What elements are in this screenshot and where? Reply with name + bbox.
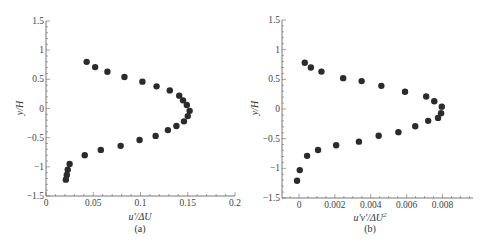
data-point [425,118,431,124]
data-point [82,152,88,158]
data-point [92,64,98,70]
x-tick-label: 0.004 [360,200,382,210]
x-axis-label-a: u'/ΔU [128,211,152,222]
data-point [117,143,123,149]
y-tick-label: −1.5 [263,193,280,203]
data-point [308,64,314,70]
data-point [184,102,190,108]
data-point [185,113,191,119]
data-point [315,147,321,153]
chart-panel-a: 1.510.50−0.5−1−1.500.050.10.150.2 u'/ΔU … [14,16,241,235]
axes-a: 1.510.50−0.5−1−1.500.050.10.150.2 [27,16,241,208]
figure: 1.510.50−0.5−1−1.500.050.10.150.2 u'/ΔU … [0,0,488,248]
y-tick-label: 0.5 [268,74,280,84]
data-point [423,93,429,99]
data-point [375,133,381,139]
data-point [153,83,159,89]
data-point [297,167,303,173]
data-point [104,69,110,75]
y-tick-label: 0.5 [32,74,44,84]
data-point [66,161,72,167]
x-axis-label-b-base: u'v'/ΔU [353,212,383,223]
x-tick-label: 0.008 [432,200,454,210]
x-axis-label-b-sup: 2 [383,211,387,219]
data-point [121,74,127,80]
data-point [412,123,418,129]
data-point [304,153,310,159]
y-tick-label: −0.5 [27,133,44,143]
x-axis-label-b: u'v'/ΔU2 [353,211,387,223]
y-tick-label: 1.5 [32,16,44,26]
y-tick-label: −1 [34,162,44,172]
y-tick-label: −1 [270,163,280,173]
x-tick-label: 0.1 [135,198,147,208]
x-tick-label: 0.006 [396,200,418,210]
panel-caption-b: (b) [364,223,376,235]
chart-panel-b: 1.510.50−0.5−1−1.500.0020.0040.0060.008 … [249,15,473,235]
data-point [318,68,324,74]
x-tick-label: 0 [297,200,302,210]
data-point [431,98,437,104]
data-point [402,89,408,95]
x-tick-label: 0.05 [85,198,102,208]
y-tick-label: 0 [275,104,280,114]
data-point [356,138,362,144]
y-tick-label: 0 [39,104,44,114]
data-point [181,118,187,124]
x-tick-label: 0.15 [179,198,196,208]
data-point [167,87,173,93]
data-points-a [63,59,193,183]
panel-caption-a: (a) [134,223,145,235]
y-axis-label-a: y/H [14,100,25,116]
x-tick-label: 0 [44,198,49,208]
data-point [358,78,364,84]
data-points-b [294,60,445,184]
y-axis-label-b: y/H [249,100,260,116]
data-point [152,133,158,139]
y-tick-label: 1.5 [268,15,280,25]
data-point [63,176,69,182]
x-tick-label: 0.2 [229,198,241,208]
data-point [165,127,171,133]
data-point [98,147,104,153]
data-point [139,78,145,84]
data-point [340,75,346,81]
data-point [378,83,384,89]
data-point [136,137,142,143]
data-point [83,59,89,65]
y-tick-label: 1 [275,45,280,55]
data-point [439,103,445,109]
data-point [173,123,179,129]
x-tick-label: 0.002 [324,200,346,210]
data-point [435,115,441,121]
y-tick-label: −1.5 [27,191,44,201]
y-tick-label: −0.5 [263,134,280,144]
data-point [302,60,308,66]
data-point [395,129,401,135]
data-point [294,178,300,184]
data-point [333,142,339,148]
y-tick-label: 1 [39,45,44,55]
